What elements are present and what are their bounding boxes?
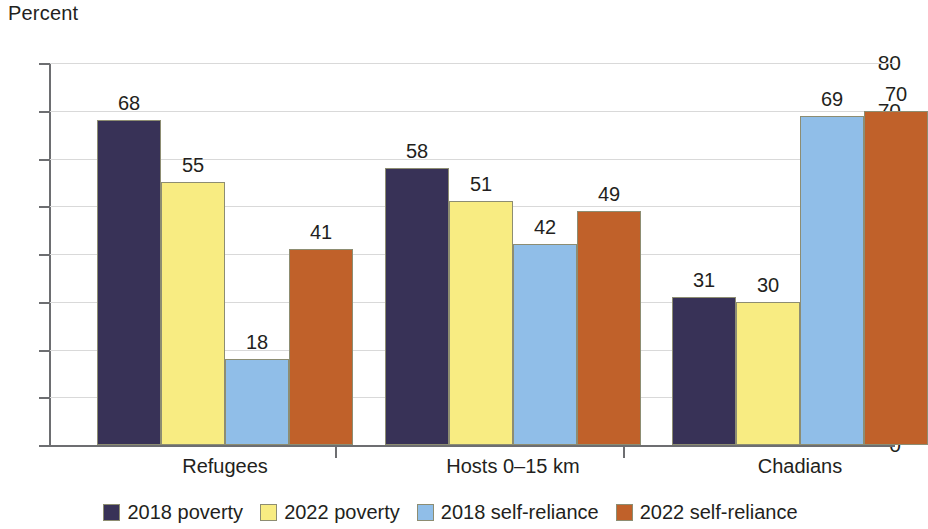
legend-swatch-icon — [417, 504, 434, 521]
legend-label: 2022 poverty — [284, 502, 400, 522]
bar-value-label: 70 — [864, 84, 928, 104]
bar-value-label: 55 — [161, 155, 225, 175]
bar-value-label: 41 — [289, 222, 353, 242]
legend-item[interactable]: 2022 poverty — [260, 502, 400, 522]
bar-value-label: 18 — [225, 332, 289, 352]
bar — [672, 297, 736, 445]
bar — [864, 111, 928, 445]
bar-value-label: 30 — [736, 275, 800, 295]
chart-legend: 2018 poverty2022 poverty2018 self-relian… — [0, 497, 901, 527]
y-axis-tick — [39, 111, 50, 113]
legend-item[interactable]: 2022 self-reliance — [616, 502, 798, 522]
legend-item[interactable]: 2018 self-reliance — [417, 502, 599, 522]
bar — [97, 120, 161, 445]
legend-swatch-icon — [260, 504, 277, 521]
y-axis-tick — [39, 159, 50, 161]
legend-label: 2018 self-reliance — [441, 502, 599, 522]
legend-swatch-icon — [616, 504, 633, 521]
gridline — [50, 111, 895, 112]
legend-label: 2018 poverty — [127, 502, 243, 522]
bar — [385, 168, 449, 445]
bar — [449, 201, 513, 445]
x-axis-category-label: Refugees — [97, 455, 353, 477]
x-axis-category-label: Hosts 0–15 km — [385, 455, 641, 477]
plot-area — [50, 63, 895, 445]
y-axis-tick — [39, 254, 50, 256]
y-axis-tick — [39, 63, 50, 65]
y-axis-tick — [39, 350, 50, 352]
x-axis-category-label: Chadians — [672, 455, 928, 477]
bar-value-label: 68 — [97, 93, 161, 113]
bar — [161, 182, 225, 445]
legend-item[interactable]: 2018 poverty — [103, 502, 243, 522]
y-axis-tick — [39, 206, 50, 208]
bar — [577, 211, 641, 445]
legend-label: 2022 self-reliance — [640, 502, 798, 522]
y-axis-tick — [39, 302, 50, 304]
bar-value-label: 31 — [672, 270, 736, 290]
bar-value-label: 51 — [449, 174, 513, 194]
bar — [513, 244, 577, 445]
bar-value-label: 69 — [800, 89, 864, 109]
legend-swatch-icon — [103, 504, 120, 521]
bar-value-label: 42 — [513, 217, 577, 237]
bar-value-label: 49 — [577, 184, 641, 204]
bar-value-label: 58 — [385, 141, 449, 161]
y-axis-title: Percent — [8, 2, 78, 25]
bar — [800, 116, 864, 445]
bar — [225, 359, 289, 445]
gridline — [50, 445, 895, 447]
y-axis-tick — [39, 445, 50, 447]
bar — [289, 249, 353, 445]
gridline — [50, 63, 895, 64]
y-axis-tick — [39, 397, 50, 399]
bar — [736, 302, 800, 445]
